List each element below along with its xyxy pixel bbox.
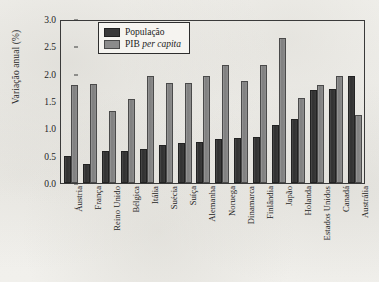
bar-pib-per-capita: [279, 38, 286, 183]
bar-populacao: [102, 151, 109, 183]
x-label-cell: Suíça: [177, 186, 191, 280]
bar-group: [272, 21, 286, 183]
bar-pib-per-capita: [185, 83, 192, 183]
x-label-cell: Bélgica: [120, 186, 134, 280]
y-tick-label: 2.5: [44, 42, 56, 52]
x-label-cell: Estados Unidos: [311, 186, 325, 280]
x-label-cell: Dinamarca: [235, 186, 249, 280]
x-tick-label: Austrália: [360, 186, 370, 218]
bar-group: [348, 21, 362, 183]
bar-group: [83, 21, 97, 183]
bar-pib-per-capita: [109, 111, 116, 183]
x-label-cell: Itália: [139, 186, 153, 280]
bar-group: [215, 21, 229, 183]
x-label-cell: Holanda: [292, 186, 306, 280]
legend-label-populacao: População: [125, 27, 165, 37]
chart-canvas: Variação anual (%) 0.00.51.01.52.02.53.0…: [0, 0, 379, 282]
x-label-cell: Alemanha: [196, 186, 210, 280]
x-label-cell: Noruega: [216, 186, 230, 280]
x-axis-labels: ÁustriaFrançaReino UnidoBélgicaItáliaSué…: [60, 186, 365, 280]
bar-pib-per-capita: [260, 65, 267, 183]
y-tick-label: 1.5: [44, 97, 56, 107]
bar-populacao: [140, 149, 147, 183]
bar-group: [196, 21, 210, 183]
bar-populacao: [121, 151, 128, 183]
bar-populacao: [329, 89, 336, 183]
bar-pib-per-capita: [336, 76, 343, 183]
bar-populacao: [348, 76, 355, 183]
y-tick-label: 2.0: [44, 70, 56, 80]
legend-entry-populacao: População: [104, 27, 181, 37]
bar-populacao: [83, 164, 90, 183]
bar-group: [310, 21, 324, 183]
y-tick-label: 1.0: [44, 124, 56, 134]
chart-legend: População PIB per capita: [98, 22, 190, 54]
bar-pib-per-capita: [166, 83, 173, 183]
bar-populacao: [310, 90, 317, 183]
y-tick-label: 0.5: [44, 152, 56, 162]
bar-pib-per-capita: [71, 85, 78, 183]
bar-group: [253, 21, 267, 183]
bar-pib-per-capita: [128, 99, 135, 183]
y-axis-ticks: 0.00.51.01.52.02.53.0: [18, 14, 56, 190]
bar-pib-per-capita: [317, 85, 324, 183]
bar-populacao: [159, 145, 166, 183]
bar-group: [234, 21, 248, 183]
bar-group: [64, 21, 78, 183]
bar-pib-per-capita: [203, 76, 210, 183]
bar-pib-per-capita: [90, 84, 97, 183]
x-label-cell: Áustria: [63, 186, 77, 280]
x-label-cell: Finlândia: [254, 186, 268, 280]
bar-pib-per-capita: [241, 81, 248, 183]
bar-pib-per-capita: [222, 65, 229, 183]
legend-label-pib-prefix: PIB: [125, 39, 142, 49]
bar-pib-per-capita: [355, 115, 362, 183]
x-label-cell: Japão: [273, 186, 287, 280]
legend-label-pib-italic: per capita: [142, 39, 181, 49]
bar-populacao: [196, 142, 203, 183]
legend-label-pib-per-capita: PIB per capita: [125, 39, 181, 49]
y-tick-label: 0.0: [44, 179, 56, 189]
x-label-cell: Reino Unido: [101, 186, 115, 280]
bar-populacao: [291, 119, 298, 184]
legend-entry-pib-per-capita: PIB per capita: [104, 39, 181, 49]
bar-populacao: [64, 156, 71, 183]
legend-swatch-pib-per-capita: [104, 40, 120, 49]
bar-group: [291, 21, 305, 183]
legend-swatch-populacao: [104, 28, 120, 37]
x-label-cell: Suécia: [158, 186, 172, 280]
y-tick-label: 3.0: [44, 15, 56, 25]
bar-populacao: [253, 137, 260, 183]
bar-pib-per-capita: [298, 98, 305, 183]
bar-group: [329, 21, 343, 183]
x-label-cell: França: [82, 186, 96, 280]
bar-populacao: [178, 143, 185, 183]
bar-populacao: [234, 138, 241, 183]
bar-pib-per-capita: [147, 76, 154, 183]
bar-populacao: [215, 139, 222, 183]
x-label-cell: Austrália: [349, 186, 363, 280]
x-label-cell: Canadá: [330, 186, 344, 280]
bar-populacao: [272, 125, 279, 183]
